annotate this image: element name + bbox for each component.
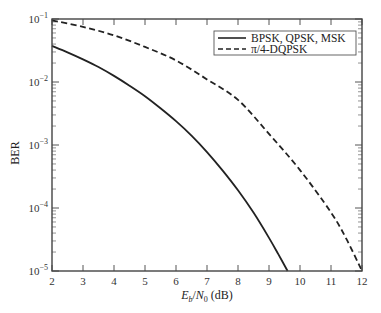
- x-tick-label: 10: [295, 275, 307, 287]
- y-tick-label: 10−5: [28, 263, 48, 277]
- x-axis-label: Eb/N0 (dB): [180, 288, 233, 304]
- y-tick-label: 10−2: [28, 74, 48, 88]
- legend-label-1: π/4-DQPSK: [251, 43, 308, 55]
- x-tick-label: 3: [80, 275, 86, 287]
- plot-curves: [52, 20, 362, 271]
- y-axis-label: BER: [8, 141, 22, 164]
- y-tick-label: 10−4: [28, 200, 48, 214]
- curve-pi4-dqpsk: [52, 20, 362, 271]
- y-tick-label: 10−3: [28, 137, 48, 151]
- x-tick-label: 4: [111, 275, 117, 287]
- x-tick-label: 2: [49, 275, 55, 287]
- x-tick-label: 8: [235, 275, 241, 287]
- y-tick-label: 10−1: [28, 11, 48, 25]
- legend: BPSK, QPSK, MSK π/4-DQPSK: [214, 31, 356, 55]
- y-minor-ticks: [52, 22, 362, 252]
- x-tick-label: 5: [142, 275, 148, 287]
- x-tick-label: 9: [266, 275, 272, 287]
- curve-bpsk-qpsk-msk: [52, 46, 288, 271]
- x-tick-label: 6: [173, 275, 179, 287]
- ber-chart: 23456789101112 10−110−210−310−410−5 BPSK…: [0, 0, 381, 313]
- x-tick-label: 11: [326, 275, 337, 287]
- plot-frame: [52, 19, 362, 271]
- x-tick-label: 7: [204, 275, 210, 287]
- x-tick-label: 12: [357, 275, 368, 287]
